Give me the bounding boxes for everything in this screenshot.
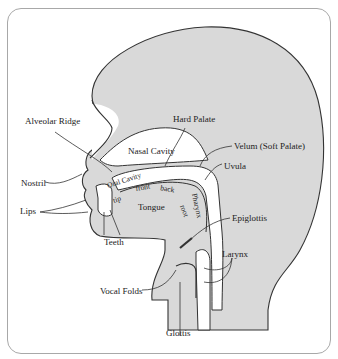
label-nostril: Nostril: [21, 178, 47, 188]
label-tongue: Tongue: [138, 202, 165, 212]
label-lips: Lips: [20, 206, 36, 216]
vocal-tract-diagram: Alveolar Ridge Hard Palate Nasal Cavity …: [0, 0, 338, 359]
label-alveolar-ridge: Alveolar Ridge: [25, 116, 80, 126]
label-uvula: Uvula: [224, 161, 246, 171]
larynx: [196, 250, 210, 330]
label-teeth: Teeth: [104, 237, 124, 247]
label-hard-palate: Hard Palate: [173, 114, 215, 124]
label-nasal-cavity: Nasal Cavity: [128, 146, 175, 156]
label-velum: Velum (Soft Palate): [234, 141, 305, 151]
label-glottis: Glottis: [166, 328, 191, 338]
label-vocal-folds: Vocal Folds: [100, 286, 143, 296]
label-larynx: Larynx: [222, 249, 248, 259]
label-epiglottis: Epiglottis: [232, 213, 268, 223]
